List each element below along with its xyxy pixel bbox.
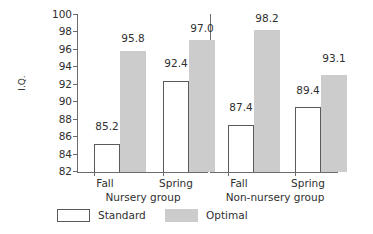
bar-nonnursery-fall-standard [228,125,254,172]
chart-legend: Standard Optimal [0,208,373,230]
x-axis-tick-mark [228,172,229,176]
x-axis-label-fall: Fall [83,177,127,189]
bar-value-label: 87.4 [221,102,261,113]
y-axis-tick-label: 88 [28,114,72,124]
y-axis-tick-label: 94 [28,61,72,71]
y-axis-tick-label: 86 [28,131,72,141]
x-axis-line-nursery [77,172,208,173]
bar-nursery-spring-standard [163,81,189,172]
y-axis-tick-label: 100 [28,9,72,19]
group-label-nursery: Nursery group [78,191,208,203]
y-axis-tick-label: 92 [28,79,72,89]
bar-nonnursery-spring-standard [295,107,321,172]
bar-nursery-fall-standard [94,144,120,172]
legend-swatch-optimal-icon [165,209,198,222]
y-axis-tick-label: 82 [28,166,72,176]
y-axis-tick-label: 96 [28,44,72,54]
bar-value-label: 93.1 [314,53,354,64]
x-axis-tick-mark [295,172,296,176]
legend-swatch-standard-icon [57,209,90,222]
bar-nonnursery-fall-optimal [254,30,280,172]
legend-label-standard: Standard [98,208,146,222]
y-axis-tick-label: 90 [28,96,72,106]
x-axis-label-spring: Spring [152,177,200,189]
bar-value-label: 98.2 [247,13,287,24]
bar-value-label: 85.2 [87,121,127,132]
legend-entry-optimal: Optimal [165,208,285,224]
legend-entry-standard: Standard [57,208,177,224]
x-axis-label-spring: Spring [284,177,332,189]
x-axis-tick-mark [94,172,95,176]
group-label-non-nursery: Non-nursery group [205,191,345,203]
bar-chart-figure: I.Q. 100 98 96 94 92 90 88 86 84 82 85.2… [0,0,373,234]
bar-nursery-fall-optimal [120,51,146,172]
y-axis-tick-label: 98 [28,26,72,36]
legend-label-optimal: Optimal [206,208,248,222]
bar-value-label: 97.0 [182,23,222,34]
x-axis-label-fall: Fall [217,177,261,189]
y-axis-title: I.Q. [17,63,27,103]
bar-value-label: 95.8 [113,33,153,44]
x-axis-line-non-nursery [210,172,338,173]
bar-value-label: 92.4 [156,58,196,69]
bar-value-label: 89.4 [288,85,328,96]
y-axis-tick-label: 84 [28,149,72,159]
x-axis-tick-mark [163,172,164,176]
